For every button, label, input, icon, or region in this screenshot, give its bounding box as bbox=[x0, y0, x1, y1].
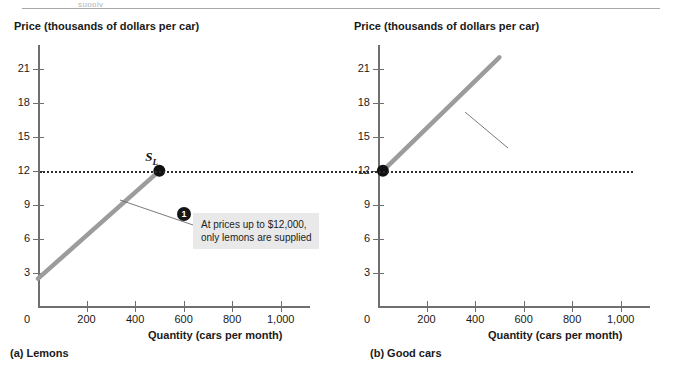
callout-line-1: At prices up to $12,000, bbox=[201, 218, 312, 231]
panel-lemons: Price (thousands of dollars per car) 369… bbox=[0, 0, 340, 369]
supply-curve-good-cars bbox=[383, 57, 500, 170]
callout-line-2: only lemons are supplied bbox=[201, 231, 312, 244]
curve-layer-lemons bbox=[0, 0, 340, 369]
callout-badge-1: 1 bbox=[177, 207, 191, 221]
callout-leader-2 bbox=[465, 112, 508, 148]
panel-good-cars: Price (thousands of dollars per car) 369… bbox=[340, 0, 679, 369]
supply-curve-lemons bbox=[38, 171, 159, 279]
curve-layer-good-cars bbox=[340, 0, 679, 369]
panel-caption-lemons: (a) Lemons bbox=[10, 347, 69, 359]
curve-label-sl: SL bbox=[145, 149, 158, 167]
panel-caption-good-cars: (b) Good cars bbox=[370, 347, 442, 359]
price-12-reference-line bbox=[40, 171, 633, 173]
callout-lemons: At prices up to $12,000, only lemons are… bbox=[193, 213, 319, 249]
